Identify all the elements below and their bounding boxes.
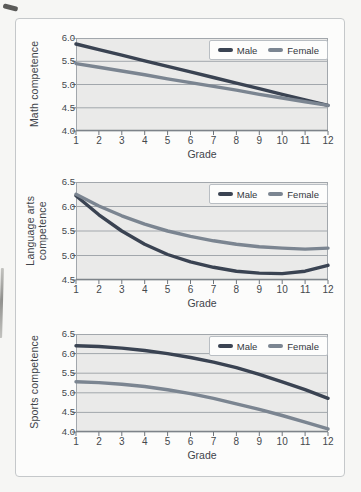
y-tick-label: 6.5	[49, 328, 75, 340]
x-tick-label: 10	[272, 436, 292, 447]
figure-frame: Math competence Grade 4.04.55.05.56.0123…	[15, 18, 345, 477]
scan-artifact-top-left	[3, 3, 19, 11]
x-tick-label: 5	[158, 436, 178, 447]
legend-label-male: Male	[237, 341, 258, 352]
sports-competence-chart: Sports competence Grade 4.04.55.05.56.06…	[16, 19, 344, 476]
female-swatch-icon	[268, 344, 283, 348]
y-tick-label: 4.5	[49, 406, 75, 418]
legend-item-male: Male	[218, 341, 258, 352]
x-tick-label: 9	[249, 436, 269, 447]
x-tick-label: 12	[318, 436, 338, 447]
x-tick-label: 7	[203, 436, 223, 447]
y-axis-title-sports: Sports competence	[29, 322, 41, 442]
legend-item-female: Female	[268, 341, 319, 352]
x-tick-label: 1	[66, 436, 86, 447]
x-tick-label: 4	[135, 436, 155, 447]
male-swatch-icon	[218, 344, 233, 348]
y-tick-label: 5.5	[49, 367, 75, 379]
x-tick-label: 6	[181, 436, 201, 447]
x-tick-label: 3	[112, 436, 132, 447]
x-tick-label: 2	[89, 436, 109, 447]
scan-artifact-left-edge	[0, 268, 3, 338]
y-tick-label: 6.0	[49, 348, 75, 360]
x-axis-title-grade: Grade	[172, 449, 232, 461]
scanned-figure-page: Math competence Grade 4.04.55.05.56.0123…	[0, 0, 361, 492]
legend-label-female: Female	[287, 341, 319, 352]
x-tick-label: 8	[226, 436, 246, 447]
legend: MaleFemale	[209, 336, 328, 356]
y-tick-label: 5.0	[49, 387, 75, 399]
x-tick-label: 11	[295, 436, 315, 447]
